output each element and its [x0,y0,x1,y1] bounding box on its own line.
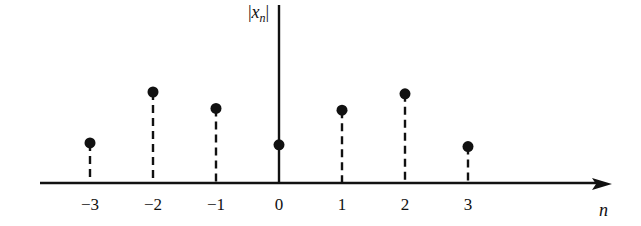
x-tick-label: −3 [81,195,99,215]
x-tick-label: −1 [207,195,225,215]
stem-marker [148,87,159,98]
x-axis-label: n [599,200,608,221]
x-tick-label: 0 [275,195,284,215]
stem-marker [274,139,285,150]
x-tick-label: −2 [144,195,162,215]
x-tick-label: 3 [464,195,473,215]
stem-marker [400,88,411,99]
y-axis-label: |xn| [248,2,269,26]
stem-marker [463,141,474,152]
stem-marker [337,105,348,116]
stem-marker [211,103,222,114]
x-tick-label: 2 [401,195,410,215]
stem-marker [85,137,96,148]
x-tick-label: 1 [338,195,347,215]
stem-plot [0,0,641,226]
